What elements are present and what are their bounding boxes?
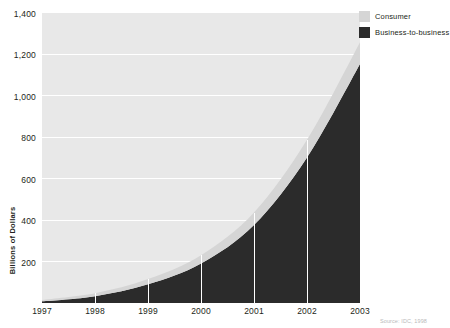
x-gridline-tick bbox=[307, 140, 308, 303]
x-axis-tick-label: 1997 bbox=[20, 306, 64, 316]
source-note: Source: IDC, 1998 bbox=[380, 318, 427, 324]
y-axis-title: Billions of Dollars bbox=[8, 191, 17, 291]
legend-item-consumer: Consumer bbox=[359, 11, 450, 22]
x-axis-tick-label: 1999 bbox=[126, 306, 170, 316]
x-gridline-tick bbox=[95, 293, 96, 303]
y-axis-tick-label: 1,400 bbox=[0, 9, 36, 19]
chart-figure: Billions of Dollars 1,400 1,200 1,000 80… bbox=[0, 0, 450, 328]
y-axis-tick-label: 1,200 bbox=[0, 50, 36, 60]
x-axis-tick-label: 2002 bbox=[285, 306, 329, 316]
legend-swatch-icon bbox=[359, 27, 370, 38]
x-axis-tick-label: 2001 bbox=[232, 306, 276, 316]
y-axis-tick-label: 1,000 bbox=[0, 92, 36, 102]
y-axis-tick-label: 600 bbox=[0, 175, 36, 185]
y-axis-tick-label: 200 bbox=[0, 258, 36, 268]
x-gridline-tick bbox=[201, 255, 202, 303]
x-axis-tick-label: 2000 bbox=[179, 306, 223, 316]
y-axis-tick-label: 400 bbox=[0, 216, 36, 226]
x-gridline-tick bbox=[254, 213, 255, 303]
x-gridline-tick bbox=[148, 279, 149, 303]
chart-legend: Consumer Business-to-business bbox=[359, 11, 450, 43]
plot-area bbox=[42, 12, 360, 303]
x-axis-tick-label: 1998 bbox=[73, 306, 117, 316]
legend-item-label: Business-to-business bbox=[375, 28, 449, 37]
y-axis-tick-label: 800 bbox=[0, 133, 36, 143]
legend-swatch-icon bbox=[359, 11, 370, 22]
legend-item-label: Consumer bbox=[375, 12, 411, 21]
x-axis-tick-label: 2003 bbox=[338, 306, 382, 316]
legend-item-business-to-business: Business-to-business bbox=[359, 27, 450, 38]
